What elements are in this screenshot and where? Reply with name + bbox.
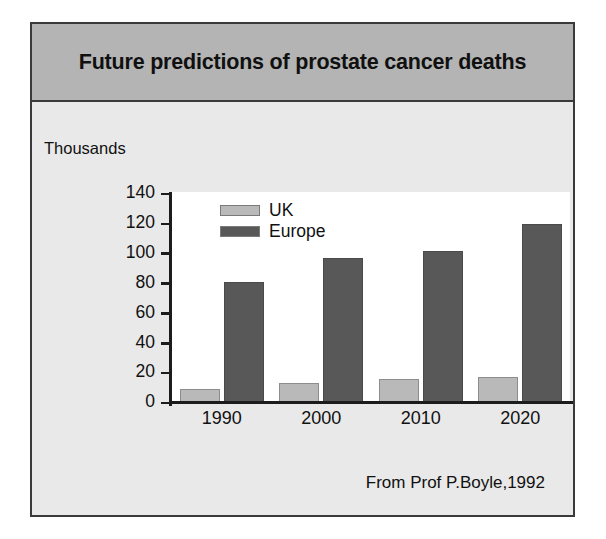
y-axis-tick-label: 80 — [136, 274, 155, 292]
bar-group — [471, 192, 571, 403]
legend-label: Europe — [269, 223, 325, 241]
x-axis-label: 1990 — [172, 408, 272, 429]
legend-item-uk[interactable]: UK — [220, 200, 325, 221]
y-axis-tick-label: 20 — [136, 363, 155, 381]
bar-europe-2010[interactable] — [423, 251, 463, 403]
y-axis-tick-label: 100 — [126, 244, 155, 262]
y-axis-tick-label: 120 — [126, 214, 155, 232]
x-axis-label: 2020 — [471, 408, 571, 429]
legend-swatch-icon — [220, 226, 260, 237]
y-axis-unit-label: Thousands — [44, 139, 126, 158]
y-axis-ticks: 020406080100120140 — [72, 194, 170, 403]
y-axis-tick-label: 60 — [136, 304, 155, 322]
bar-europe-2020[interactable] — [522, 224, 562, 403]
page-title: Future predictions of prostate cancer de… — [79, 50, 527, 75]
y-axis-tick-label: 140 — [126, 184, 155, 202]
y-axis-tick-label: 0 — [145, 393, 155, 411]
y-axis-tick-label: 40 — [136, 334, 155, 352]
legend-item-europe[interactable]: Europe — [220, 221, 325, 242]
x-axis-label: 2010 — [371, 408, 471, 429]
plot-area: UKEurope — [172, 192, 570, 403]
bar-uk-2020[interactable] — [478, 377, 518, 403]
legend-swatch-icon — [220, 205, 260, 216]
x-axis-line — [169, 401, 573, 404]
x-axis-label: 2000 — [272, 408, 372, 429]
legend-label: UK — [269, 202, 293, 220]
bar-europe-1990[interactable] — [224, 282, 264, 403]
bar-europe-2000[interactable] — [323, 258, 363, 403]
bar-uk-2010[interactable] — [379, 379, 419, 403]
chart-legend: UKEurope — [220, 200, 325, 242]
x-axis-labels: 1990200020102020 — [172, 408, 570, 438]
slide-frame: Future predictions of prostate cancer de… — [30, 22, 575, 517]
bar-chart: Thousands 020406080100120140 UKEurope 19… — [32, 102, 573, 517]
bar-group — [371, 192, 471, 403]
source-attribution: From Prof P.Boyle,1992 — [366, 473, 545, 493]
title-banner: Future predictions of prostate cancer de… — [32, 24, 573, 102]
